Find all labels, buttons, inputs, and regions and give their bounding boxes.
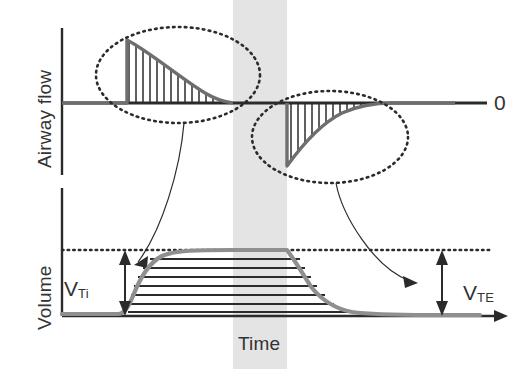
time-axis-label: Time	[238, 333, 280, 355]
zero-flow-label: 0	[494, 91, 506, 115]
vte-letter: V	[463, 281, 477, 304]
flow-axis-label: Airway flow	[34, 70, 56, 168]
inspiratory-flow-curve	[62, 40, 233, 103]
inspiratory-leader-line	[138, 123, 184, 262]
vte-arrow-up	[436, 250, 448, 265]
vti-arrow-up	[119, 250, 131, 265]
shaded-pause-band	[233, 0, 287, 369]
vte-label: VTE	[463, 281, 494, 305]
expiratory-leader-arrowhead	[403, 276, 418, 288]
volume-axis-label: Volume	[34, 265, 56, 330]
vte-subscript: TE	[477, 290, 494, 305]
volume-hatch	[128, 259, 350, 312]
vti-subscript: Ti	[78, 286, 89, 301]
vti-letter: V	[64, 277, 78, 300]
expiratory-hatch	[291, 103, 368, 162]
volume-x-axis-arrowhead	[494, 310, 508, 322]
respiratory-waveform-figure	[0, 0, 522, 369]
expiratory-leader-line	[336, 183, 410, 281]
vti-label: VTi	[64, 277, 89, 301]
